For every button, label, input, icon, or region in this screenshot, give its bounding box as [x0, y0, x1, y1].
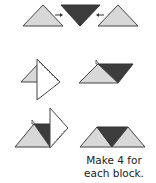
caption-line-1: Make 4 for	[72, 154, 156, 167]
small-flap-row3	[32, 120, 35, 124]
small-flap	[96, 60, 99, 64]
caption: Make 4 for each block.	[72, 154, 156, 180]
arrow-left-icon	[96, 13, 104, 17]
folded-flap-row3	[50, 108, 68, 148]
caption-line-2: each block.	[72, 167, 156, 180]
row-1	[23, 5, 138, 26]
dark-triangle-center	[61, 5, 100, 26]
row-2	[21, 59, 133, 100]
arrow-right-icon	[55, 13, 63, 17]
row-3	[15, 108, 145, 148]
light-triangle-folding	[21, 64, 38, 82]
